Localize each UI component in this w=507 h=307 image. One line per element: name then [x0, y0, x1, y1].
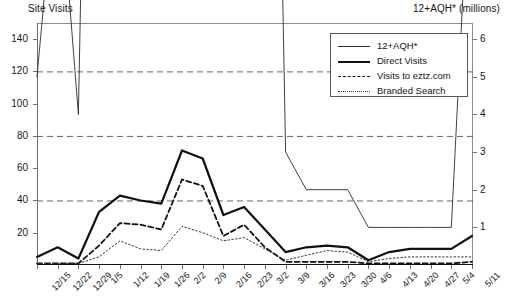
- y-tick-label-left: 20: [2, 227, 28, 238]
- y-tick-label-right: 6: [480, 33, 500, 44]
- legend-label: Branded Search: [377, 85, 446, 96]
- y-tick-left: [33, 39, 37, 40]
- legend-label: 12+AQH*: [377, 40, 417, 51]
- x-tick-label: 2/9: [212, 270, 228, 286]
- y-tick-label-right: 3: [480, 146, 500, 157]
- series-line: [37, 226, 472, 263]
- x-tick-label: 1/12: [131, 270, 150, 289]
- y-tick-label-right: 4: [480, 108, 500, 119]
- x-tick-label: 3/30: [359, 270, 378, 289]
- y-tick-label-left: 140: [2, 33, 28, 44]
- y-tick-left: [33, 104, 37, 105]
- y-tick-right: [473, 39, 477, 40]
- legend-label: Direct Visits: [377, 55, 427, 66]
- x-tick-label: 4/27: [442, 270, 461, 289]
- x-tick-label: 3/9: [295, 270, 311, 286]
- legend-item: 12+AQH*: [337, 38, 462, 53]
- y-tick-left: [33, 168, 37, 169]
- y-tick-right: [473, 77, 477, 78]
- x-tick-label: 4/13: [400, 270, 419, 289]
- legend-swatch-line-icon: [337, 70, 371, 82]
- x-tick-label: 1/19: [152, 270, 171, 289]
- legend-swatch-line-icon: [337, 85, 371, 97]
- x-tick-label: 3/16: [317, 270, 336, 289]
- right-axis-title: 12+AQH* (millions): [413, 3, 500, 14]
- legend-item: Visits to eztz.com: [337, 68, 462, 83]
- left-axis-title: Site Visits: [28, 3, 73, 14]
- legend-label: Visits to eztz.com: [377, 70, 451, 81]
- legend: 12+AQH* Direct Visits Visits to eztz.com…: [330, 33, 468, 97]
- y-tick-right: [473, 114, 477, 115]
- y-tick-left: [33, 233, 37, 234]
- y-tick-right: [473, 190, 477, 191]
- legend-swatch-line-icon: [337, 40, 371, 52]
- y-tick-label-right: 2: [480, 184, 500, 195]
- x-tick-label: 12/15: [50, 270, 73, 293]
- x-tick-label: 3/2: [275, 270, 291, 286]
- x-tick-label: 12/22: [70, 270, 93, 293]
- chart-screenshot: Site Visits 12+AQH* (millions) 204060801…: [0, 0, 507, 307]
- x-tick-label: 2/23: [255, 270, 274, 289]
- x-tick-label: 1/26: [172, 270, 191, 289]
- y-tick-label-left: 60: [2, 162, 28, 173]
- y-tick-label-left: 40: [2, 194, 28, 205]
- x-tick-label: 4/6: [378, 270, 394, 286]
- y-tick-left: [33, 136, 37, 137]
- legend-item: Direct Visits: [337, 53, 462, 68]
- y-tick-right: [473, 152, 477, 153]
- y-tick-label-right: 1: [480, 221, 500, 232]
- x-tick-label: 3/23: [338, 270, 357, 289]
- y-tick-left: [33, 200, 37, 201]
- x-tick-label: 2/16: [235, 270, 254, 289]
- x-tick-label: 1/5: [109, 270, 125, 286]
- legend-swatch-line-icon: [337, 55, 371, 67]
- y-tick-right: [473, 227, 477, 228]
- y-tick-left: [33, 71, 37, 72]
- x-tick-label: 5/4: [461, 270, 477, 286]
- x-tick-label: 5/11: [483, 270, 502, 289]
- x-axis-labels: 12/1512/2212/291/51/121/191/262/22/92/16…: [0, 268, 507, 307]
- x-tick-label: 2/2: [192, 270, 208, 286]
- series-line: [37, 180, 472, 264]
- x-tick-label: 4/20: [421, 270, 440, 289]
- legend-item: Branded Search: [337, 83, 462, 98]
- y-tick-label-left: 80: [2, 130, 28, 141]
- y-tick-label-left: 100: [2, 98, 28, 109]
- y-tick-label-left: 120: [2, 65, 28, 76]
- y-tick-label-right: 5: [480, 71, 500, 82]
